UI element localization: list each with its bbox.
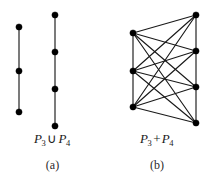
formula-operator: ∪ [46, 131, 58, 146]
formula-left-symbol: P [34, 131, 42, 146]
graph-vertex [16, 24, 22, 30]
formula-left-subscript: 3 [147, 138, 151, 148]
formula-operator: + [152, 131, 161, 146]
graph-vertex [130, 68, 136, 74]
formula-right-subscript: 4 [66, 138, 70, 148]
join-edge [133, 87, 196, 107]
panel-disjoint-union: P3∪P4 (a) [0, 0, 105, 184]
formula-left-subscript: 3 [42, 138, 46, 148]
panel-join: P3+P4 (b) [105, 0, 209, 184]
formula-right-subscript: 4 [169, 138, 173, 148]
graph-figure: P3∪P4 (a) P3+P4 (b) [0, 0, 209, 184]
graph-vertex [52, 49, 58, 55]
graph-vertex [16, 68, 22, 74]
graph-vertex [193, 120, 199, 126]
graph-vertex [130, 30, 136, 36]
join-edge [133, 33, 196, 51]
graph-vertex [52, 86, 58, 92]
join-edge [133, 15, 196, 71]
graph-vertex [52, 123, 58, 129]
join-graph [105, 0, 209, 131]
caption-a: (a) [0, 158, 105, 173]
formula-join: P3+P4 [105, 131, 209, 147]
caption-b: (b) [105, 158, 209, 173]
graph-vertex [130, 104, 136, 110]
graph-vertex [193, 48, 199, 54]
disjoint-union-graph [0, 0, 105, 131]
graph-vertex [193, 84, 199, 90]
graph-vertex [16, 109, 22, 115]
formula-disjoint-union: P3∪P4 [0, 131, 105, 147]
graph-vertex [193, 12, 199, 18]
join-edge [133, 15, 196, 107]
graph-vertex [52, 12, 58, 18]
